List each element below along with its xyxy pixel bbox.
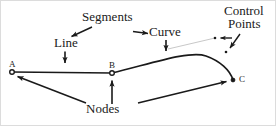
control-point-1 xyxy=(214,37,217,40)
label-nodes: Nodes xyxy=(86,102,119,115)
node-label-b: B xyxy=(109,61,115,70)
node-point-a xyxy=(10,70,15,75)
label-control-points: Points xyxy=(228,17,261,30)
arrow-control-to-cp2 xyxy=(230,34,240,48)
node-label-a: A xyxy=(9,60,16,69)
arrow-nodes-to-a xyxy=(18,77,87,104)
control-point-2 xyxy=(225,51,228,54)
label-line: Line xyxy=(54,36,78,49)
label-segments: Segments xyxy=(82,10,133,23)
node-point-b xyxy=(110,71,115,76)
diagram-canvas: Segments Line Curve Control Points Nodes… xyxy=(0,0,276,126)
line-segment-path xyxy=(12,72,112,73)
arrow-nodes-to-c xyxy=(138,82,227,104)
node-point-c xyxy=(231,78,235,82)
tangent-guide-line xyxy=(168,38,215,49)
curve-segment-path xyxy=(112,55,233,80)
label-curve: Curve xyxy=(149,25,181,38)
arrow-segments-to-curve xyxy=(133,32,148,34)
node-label-c: C xyxy=(239,75,245,84)
